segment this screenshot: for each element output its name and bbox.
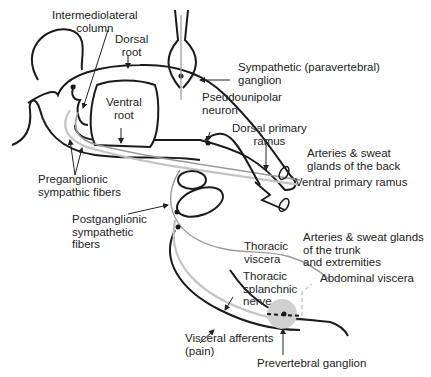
dura-loop [32,29,83,80]
label-abdominal-viscera: Abdominal viscera [320,272,414,285]
label-arteries-back: Arteries & sweat glands of the back [307,147,400,172]
label-intermediolateral-column: Intermediolateral column [52,9,138,34]
label-dorsal-primary-ramus: Dorsal primary ramus [232,122,307,147]
label-dorsal-root: Dorsal root [115,33,148,58]
label-postganglionic-fibers: Postganglionic sympathetic fibers [72,213,147,251]
label-thoracic-viscera: Thoracic viscera [244,240,288,265]
label-preganglionic-fibers: Preganglionic sympathic fibers [38,173,121,198]
label-arteries-trunk: Arteries & sweat glands of the trunk and… [303,231,424,269]
label-thoracic-splanchnic-nerve: Thoracic splanchnic nerve [243,270,297,308]
label-visceral-afferents: Visceral afferents (pain) [185,332,273,357]
label-sympathetic-ganglion: Sympathetic (paravertebral) ganglion [238,61,380,86]
label-pseudounipolar-neuron: Pseudounipolar neuron [202,91,282,116]
diagram-canvas: Intermediolateral column Dorsal root Ven… [0,0,431,377]
label-ventral-primary-ramus: Ventral primary ramus [295,176,407,189]
label-ventral-root: Ventral root [106,96,142,121]
label-prevertebral-ganglion: Prevertebral ganglion [257,357,366,370]
